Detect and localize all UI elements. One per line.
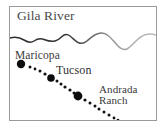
city-label-tucson: Tucson (56, 64, 92, 77)
map-figure: Gila River Maricopa Tucson Andrada Ranch (0, 0, 165, 128)
city-label-andrada-line2: Ranch (99, 95, 128, 107)
river-label: Gila River (17, 9, 75, 23)
city-label-maricopa: Maricopa (15, 49, 60, 61)
